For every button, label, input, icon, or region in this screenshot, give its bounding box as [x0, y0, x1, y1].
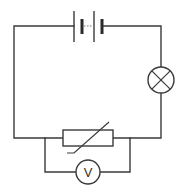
circuit-diagram: V	[0, 0, 183, 195]
wire-left	[14, 26, 74, 138]
voltmeter-label: V	[84, 165, 93, 180]
lamp-icon	[148, 67, 174, 93]
wire-top-right	[102, 26, 161, 67]
voltmeter-icon: V	[76, 160, 100, 184]
wires	[14, 26, 161, 172]
battery-icon	[74, 11, 102, 42]
wire-right	[113, 93, 161, 138]
thermistor-icon	[63, 122, 113, 153]
